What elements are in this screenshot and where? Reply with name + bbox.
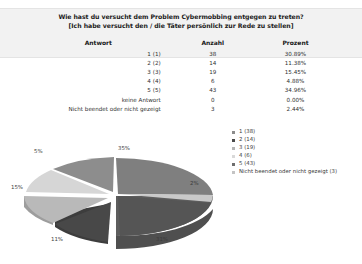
legend-swatch-icon	[232, 139, 235, 142]
table-row: 5 (5) 43 34.96%	[22, 86, 340, 95]
cell-answer: 3 (3)	[22, 67, 175, 76]
table-row: 2 (2) 14 11.38%	[22, 58, 340, 67]
chart-area: 35% 2% 31% 11% 15% 5% 1 (38) 2 (14) 3 (1…	[0, 124, 362, 264]
legend-swatch-icon	[232, 163, 235, 166]
cell-percent: 34.96%	[251, 86, 340, 95]
legend-label: 2 (14)	[239, 136, 255, 142]
cell-percent: 15.45%	[251, 67, 340, 76]
cell-answer: Nicht beendet oder nicht gezeigt	[22, 104, 175, 113]
legend-item-3: 3 (19)	[232, 144, 356, 152]
cell-count: 3	[175, 104, 251, 113]
cell-answer: 2 (2)	[22, 58, 175, 67]
pie-label-5: 5%	[34, 148, 43, 154]
chart-legend: 1 (38) 2 (14) 3 (19) 4 (6) 5 (43) Nicht …	[232, 128, 356, 176]
cell-count: 38	[175, 49, 251, 58]
legend-item-5: 5 (43)	[232, 160, 356, 168]
page-title-line-1: Wie hast du versucht dem Problem Cybermo…	[58, 13, 303, 20]
table-row: 1 (1) 38 30.89%	[22, 49, 340, 58]
pie-label-15: 15%	[11, 184, 23, 190]
legend-swatch-icon	[232, 147, 235, 150]
cell-count: 14	[175, 58, 251, 67]
cell-answer: 1 (1)	[22, 49, 175, 58]
legend-label: 4 (6)	[239, 152, 252, 158]
legend-label: 1 (38)	[239, 128, 255, 134]
table-row: Nicht beendet oder nicht gezeigt 3 2.44%	[22, 104, 340, 113]
column-header-answer: Antwort	[22, 38, 175, 49]
table-row: 4 (4) 6 4.88%	[22, 77, 340, 86]
table-row: keine Antwort 0 0.00%	[22, 95, 340, 104]
legend-label: 5 (43)	[239, 160, 255, 166]
page-title-line-2: [Ich habe versucht den / die Täter persö…	[0, 21, 362, 30]
results-table: Antwort Anzahl Prozent 1 (1) 38 30.89% 2…	[22, 38, 340, 113]
pie-slice-top-5	[116, 158, 213, 195]
cell-percent: 2.44%	[251, 104, 340, 113]
cell-count: 19	[175, 67, 251, 76]
pie-label-35: 35%	[118, 145, 130, 151]
legend-swatch-icon	[232, 131, 235, 134]
legend-swatch-icon	[232, 171, 235, 174]
cell-percent: 4.88%	[251, 77, 340, 86]
pie-chart-svg	[8, 124, 226, 260]
legend-item-2: 2 (14)	[232, 136, 356, 144]
cell-answer: 5 (5)	[22, 86, 175, 95]
legend-label: 3 (19)	[239, 144, 255, 150]
cell-count: 43	[175, 86, 251, 95]
legend-swatch-icon	[232, 155, 235, 158]
table-header-row: Antwort Anzahl Prozent	[22, 38, 340, 49]
cell-answer: 4 (4)	[22, 77, 175, 86]
legend-item-1: 1 (38)	[232, 128, 356, 136]
pie-label-11: 11%	[51, 236, 63, 242]
legend-item-4: 4 (6)	[232, 152, 356, 160]
cell-percent: 11.38%	[251, 58, 340, 67]
legend-label: Nicht beendet oder nicht gezeigt (3)	[239, 168, 337, 174]
pie-chart: 35% 2% 31% 11% 15% 5%	[8, 124, 226, 260]
pie-label-2: 2%	[190, 180, 199, 186]
cell-count: 0	[175, 95, 251, 104]
cell-answer: keine Antwort	[22, 95, 175, 104]
legend-item-6: Nicht beendet oder nicht gezeigt (3)	[232, 168, 356, 175]
column-header-count: Anzahl	[175, 38, 251, 49]
column-header-percent: Prozent	[251, 38, 340, 49]
cell-percent: 0.00%	[251, 95, 340, 104]
cell-percent: 30.89%	[251, 49, 340, 58]
cell-count: 6	[175, 77, 251, 86]
table-row: 3 (3) 19 15.45%	[22, 67, 340, 76]
page-title: Wie hast du versucht dem Problem Cybermo…	[0, 12, 362, 30]
pie-label-31: 31%	[156, 236, 168, 242]
